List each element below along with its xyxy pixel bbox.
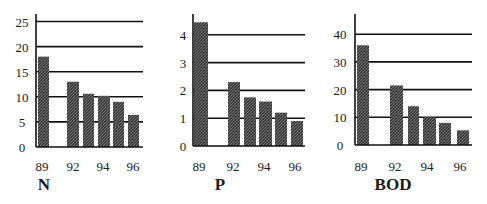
bar-95 xyxy=(275,113,287,146)
chart-n: 051015202589929496N xyxy=(16,14,144,194)
y-tick-label: 0 xyxy=(180,139,187,154)
y-tick-label: 20 xyxy=(334,83,347,98)
bar-95 xyxy=(439,123,451,145)
y-tick-label: 1 xyxy=(180,111,187,126)
y-tick-label: 25 xyxy=(16,15,29,30)
bar-92 xyxy=(228,82,240,146)
y-tick-label: 10 xyxy=(334,110,347,125)
bar-95 xyxy=(113,102,124,147)
y-tick-label: 10 xyxy=(16,90,29,105)
x-tick-label: 94 xyxy=(97,159,111,174)
bar-96 xyxy=(291,121,303,146)
x-tick-label: 92 xyxy=(67,159,80,174)
y-tick-label: 4 xyxy=(180,28,187,43)
chart-p: 0123489929496P xyxy=(180,14,305,194)
bar-charts-svg: 051015202589929496N0123489929496P0102030… xyxy=(0,0,487,204)
bar-89 xyxy=(38,57,49,147)
chart-bod: 01020304089929496BOD xyxy=(334,14,473,194)
y-tick-label: 3 xyxy=(180,56,187,71)
y-tick-label: 20 xyxy=(16,40,29,55)
chart-title: N xyxy=(38,175,51,194)
chart-title: BOD xyxy=(375,175,412,194)
figure: 051015202589929496N0123489929496P0102030… xyxy=(0,0,487,204)
y-tick-label: 2 xyxy=(180,83,187,98)
bar-93 xyxy=(83,94,94,147)
bar-92 xyxy=(67,82,79,147)
y-tick-label: 15 xyxy=(16,65,29,80)
x-tick-label: 94 xyxy=(421,159,435,174)
x-tick-label: 89 xyxy=(36,159,49,174)
y-tick-label: 0 xyxy=(337,138,344,153)
x-tick-label: 94 xyxy=(258,159,272,174)
chart-title: P xyxy=(215,175,225,194)
x-tick-label: 92 xyxy=(227,159,240,174)
bar-94 xyxy=(259,102,272,146)
y-tick-label: 0 xyxy=(19,140,26,155)
x-tick-label: 96 xyxy=(289,159,303,174)
y-tick-label: 30 xyxy=(334,55,347,70)
x-tick-label: 89 xyxy=(193,159,206,174)
y-tick-label: 5 xyxy=(19,115,26,130)
bar-92 xyxy=(390,85,403,145)
bar-94 xyxy=(98,96,110,147)
bar-89 xyxy=(357,45,369,145)
x-tick-label: 89 xyxy=(355,159,368,174)
x-tick-label: 96 xyxy=(127,159,141,174)
bar-96 xyxy=(457,130,469,145)
x-tick-label: 96 xyxy=(454,159,468,174)
bar-94 xyxy=(423,117,436,145)
x-tick-label: 92 xyxy=(389,159,402,174)
bar-93 xyxy=(244,97,256,146)
bar-96 xyxy=(128,115,139,147)
y-tick-label: 40 xyxy=(334,27,347,42)
bar-89 xyxy=(194,22,208,146)
bar-93 xyxy=(408,106,419,145)
